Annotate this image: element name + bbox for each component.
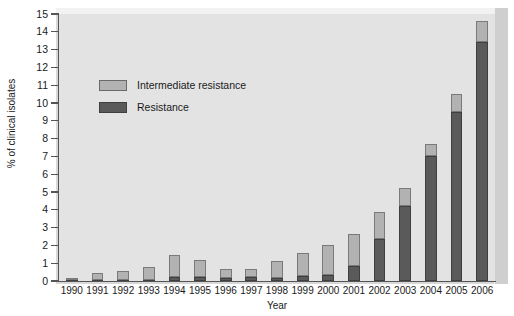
bar-group [476, 14, 488, 281]
x-axis-tick-label: 2000 [315, 285, 341, 296]
y-axis-tick [51, 120, 58, 121]
x-axis-tick-label: 2004 [418, 285, 444, 296]
bar-segment-resistance [374, 239, 386, 281]
y-axis-tick-label: 15 [0, 9, 48, 20]
bar-segment-intermediate-resistance [374, 212, 386, 239]
y-axis-tick-label: 3 [0, 222, 48, 233]
y-axis-tick [51, 209, 58, 210]
bar-group [92, 14, 104, 281]
bar-group [322, 14, 334, 281]
bar-group [374, 14, 386, 281]
y-axis-tick [51, 67, 58, 68]
bar-segment-intermediate-resistance [169, 255, 181, 277]
x-axis-tick-label: 2002 [367, 285, 393, 296]
bar-segment-intermediate-resistance [143, 267, 155, 280]
bars-layer [59, 14, 495, 281]
bar-segment-intermediate-resistance [92, 273, 104, 280]
y-axis-tick [51, 227, 58, 228]
legend-swatch-resistance [99, 102, 127, 113]
plot-area [59, 14, 495, 281]
bar-segment-resistance [451, 112, 463, 281]
bar-group [245, 14, 257, 281]
chart-figure: 0123456789101112131415 19901991199219931… [0, 0, 514, 316]
bar-segment-intermediate-resistance [476, 21, 488, 42]
x-axis-tick-label: 1994 [162, 285, 188, 296]
bar-segment-intermediate-resistance [271, 261, 283, 279]
legend-label-intermediate-resistance: Intermediate resistance [137, 79, 246, 91]
legend-swatch-intermediate-resistance [99, 80, 127, 91]
bar-group [117, 14, 129, 281]
bar-segment-intermediate-resistance [194, 260, 206, 278]
bar-segment-intermediate-resistance [425, 144, 437, 156]
bar-segment-intermediate-resistance [322, 245, 334, 275]
y-axis-tick [51, 174, 58, 175]
bar-group [451, 14, 463, 281]
y-axis-tick [51, 102, 58, 103]
bar-segment-intermediate-resistance [451, 94, 463, 112]
plot-shelf-right [495, 8, 508, 284]
y-axis-tick-label: 0 [0, 276, 48, 287]
x-axis-line [58, 281, 496, 282]
y-axis-line [58, 13, 59, 282]
x-axis-tick-label: 1998 [264, 285, 290, 296]
x-axis-tick-label: 2005 [444, 285, 470, 296]
y-axis-tick [51, 263, 58, 264]
x-axis-tick-label: 1993 [136, 285, 162, 296]
y-axis-tick-label: 1 [0, 258, 48, 269]
y-axis-tick [51, 156, 58, 157]
y-axis-tick [51, 280, 58, 281]
y-axis-tick [51, 31, 58, 32]
x-axis-tick-label: 1997 [239, 285, 265, 296]
bar-segment-resistance [399, 206, 411, 281]
y-axis-tick [51, 85, 58, 86]
bar-group [271, 14, 283, 281]
x-axis-tick-label: 2001 [341, 285, 367, 296]
bar-group [169, 14, 181, 281]
bar-group [297, 14, 309, 281]
bar-segment-intermediate-resistance [399, 188, 411, 206]
y-axis-tick [51, 191, 58, 192]
bar-group [348, 14, 360, 281]
bar-group [399, 14, 411, 281]
bar-segment-resistance [476, 42, 488, 281]
bar-group [425, 14, 437, 281]
bar-segment-intermediate-resistance [245, 269, 257, 277]
bar-segment-intermediate-resistance [66, 278, 78, 280]
bar-segment-resistance [348, 266, 360, 281]
y-axis-tick [51, 13, 58, 14]
bar-segment-intermediate-resistance [117, 271, 129, 280]
bar-group [143, 14, 155, 281]
x-axis-tick-label: 1999 [290, 285, 316, 296]
y-axis-tick [51, 245, 58, 246]
y-axis-tick [51, 138, 58, 139]
bar-segment-intermediate-resistance [348, 234, 360, 266]
bar-group [194, 14, 206, 281]
x-axis-tick-label: 1996 [213, 285, 239, 296]
x-axis-tick-label: 1991 [85, 285, 111, 296]
y-axis-title: % of clinical isolates [6, 29, 17, 219]
bar-group [66, 14, 78, 281]
legend-item-resistance: Resistance [99, 96, 246, 118]
x-axis-tick-label: 1990 [59, 285, 85, 296]
bar-group [220, 14, 232, 281]
x-axis-tick-label: 2003 [392, 285, 418, 296]
x-axis-tick-label: 1992 [110, 285, 136, 296]
x-axis-tick-label: 1995 [187, 285, 213, 296]
y-axis-tick [51, 49, 58, 50]
legend-item-intermediate-resistance: Intermediate resistance [99, 74, 246, 96]
chart-legend: Intermediate resistance Resistance [99, 74, 246, 118]
x-axis-title: Year [59, 300, 495, 311]
bar-segment-intermediate-resistance [297, 253, 309, 275]
legend-label-resistance: Resistance [137, 101, 189, 113]
y-axis-tick-label: 2 [0, 240, 48, 251]
bar-segment-resistance [425, 156, 437, 281]
bar-segment-intermediate-resistance [220, 269, 232, 278]
x-axis-tick-label: 2006 [469, 285, 495, 296]
